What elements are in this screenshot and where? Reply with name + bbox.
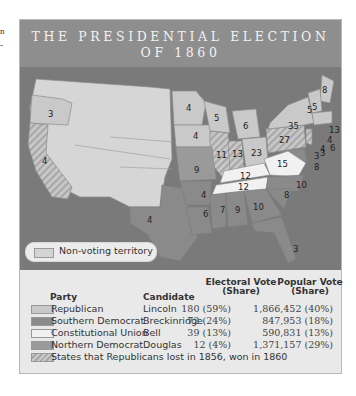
- popular-vote: 847,953 (18%): [262, 315, 333, 327]
- ev-louisiana: 6: [203, 209, 208, 219]
- ev-pennsylvania: 27: [279, 135, 290, 145]
- ev-arkansas: 4: [201, 190, 206, 200]
- ev-kentucky: 12: [240, 171, 251, 181]
- state-florida: [252, 217, 296, 263]
- ev-north-carolina: 10: [296, 180, 307, 190]
- party-name: Republican: [51, 303, 103, 315]
- candidate-name: Douglas: [143, 339, 182, 351]
- table-row-southern-democrat: Southern Democrat Breckinridge 72 (24%) …: [20, 315, 341, 327]
- ev-virginia: 15: [277, 159, 288, 169]
- map-title-line-2: OF 1860: [20, 45, 341, 60]
- electoral-vote: 72 (24%): [187, 315, 231, 327]
- ev-maine: 8: [322, 85, 327, 95]
- title-banner: THE PRESIDENTIAL ELECTION OF 1860: [20, 20, 341, 67]
- us-map-graphic: 3 4 4 4 5 6 11 13 23 27 35 5 5 8 13 4 6 …: [20, 67, 341, 270]
- ev-florida: 3: [293, 244, 298, 254]
- ev-texas: 4: [147, 215, 152, 225]
- clipped-text-fragment-1: n: [0, 26, 5, 36]
- state-arkansas: [180, 181, 212, 205]
- candidate-name: Bell: [143, 327, 161, 339]
- ev-mississippi: 7: [220, 205, 225, 215]
- ev-massachusetts: 13: [329, 125, 340, 135]
- state-missouri: [176, 147, 216, 181]
- ev-illinois: 11: [216, 150, 227, 160]
- popular-vote: 1,371,157 (29%): [253, 339, 333, 351]
- non-voting-legend: Non-voting territory: [25, 242, 157, 262]
- candidate-name: Lincoln: [143, 303, 177, 315]
- ev-south-carolina: 8: [284, 190, 289, 200]
- table-row-constitutional-union: Constitutional Union Bell 39 (13%) 590,8…: [20, 327, 341, 339]
- ev-wisconsin: 5: [214, 113, 219, 123]
- results-table: Party Candidate Electoral Vote (Share) P…: [20, 270, 341, 373]
- table-row-republican: Republican Lincoln 180 (59%) 1,866,452 (…: [20, 303, 341, 315]
- ev-california: 4: [42, 156, 47, 166]
- non-voting-swatch: [34, 248, 54, 258]
- ev-delaware: 3: [314, 151, 319, 161]
- party-name: Southern Democrat: [51, 315, 144, 327]
- ev-minnesota: 4: [186, 103, 191, 113]
- popular-vote: 1,866,452 (40%): [253, 303, 333, 315]
- ev-michigan: 6: [243, 121, 248, 131]
- ev-new-hampshire: 5: [312, 102, 317, 112]
- header-candidate: Candidate: [143, 292, 195, 302]
- electoral-vote: 12 (4%): [193, 339, 231, 351]
- party-name: Northern Democrat: [51, 339, 143, 351]
- ev-alabama: 9: [235, 205, 240, 215]
- ev-georgia: 10: [253, 202, 264, 212]
- table-row-northern-democrat: Northern Democrat Douglas 12 (4%) 1,371,…: [20, 339, 341, 351]
- map-title-line-1: THE PRESIDENTIAL ELECTION: [20, 29, 341, 44]
- electoral-vote: 39 (13%): [187, 327, 231, 339]
- ev-maryland: 8: [314, 162, 319, 172]
- popular-vote: 590,831 (13%): [262, 327, 333, 339]
- ev-new-jersey-split: 3: [320, 148, 325, 158]
- ev-ohio: 23: [251, 148, 262, 158]
- state-massachusetts-ct-ri: [312, 111, 332, 125]
- ev-oregon: 3: [48, 109, 53, 119]
- header-electoral-line2: (Share): [201, 286, 281, 296]
- ev-new-york: 35: [288, 121, 299, 131]
- header-popular-line2: (Share): [270, 286, 350, 296]
- ev-missouri: 9: [194, 165, 199, 175]
- clipped-text-fragment-2: -: [0, 40, 3, 50]
- electoral-vote: 180 (59%): [181, 303, 231, 315]
- ev-connecticut: 6: [330, 143, 335, 153]
- footnote-text: States that Republicans lost in 1856, wo…: [51, 351, 287, 363]
- ev-tennessee: 12: [238, 182, 249, 192]
- header-party: Party: [50, 292, 77, 302]
- ev-iowa: 4: [193, 131, 198, 141]
- us-map: 3 4 4 4 5 6 11 13 23 27 35 5 5 8 13 4 6 …: [20, 67, 341, 270]
- non-voting-label: Non-voting territory: [59, 245, 153, 256]
- table-row-footnote: States that Republicans lost in 1856, wo…: [20, 351, 341, 363]
- party-name: Constitutional Union: [51, 327, 148, 339]
- state-new-jersey: [306, 129, 312, 145]
- ev-indiana: 13: [232, 149, 243, 159]
- election-map-figure: THE PRESIDENTIAL ELECTION OF 1860: [19, 19, 342, 374]
